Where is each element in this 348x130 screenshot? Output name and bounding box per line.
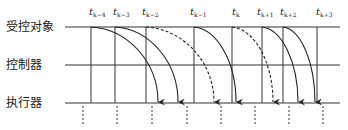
time-label: tk+3 bbox=[316, 6, 333, 18]
actuator-ticks bbox=[83, 106, 323, 126]
row-label-plant: 受控对象 bbox=[6, 20, 54, 34]
timing-diagram: 受控对象控制器执行器 tk−4tk−3tk−2tk−1tktk+1tk+2tk+… bbox=[0, 0, 348, 130]
time-label: tk−1 bbox=[190, 6, 207, 18]
row-label-actuator: 执行器 bbox=[6, 96, 42, 110]
row-labels: 受控对象控制器执行器 bbox=[6, 20, 54, 110]
time-label: tk bbox=[232, 6, 240, 18]
time-label: tk−4 bbox=[89, 6, 106, 18]
time-label: tk+2 bbox=[280, 6, 297, 18]
time-labels: tk−4tk−3tk−2tk−1tktk+1tk+2tk+3 bbox=[89, 6, 333, 18]
time-label: tk−2 bbox=[142, 6, 159, 18]
time-label: tk+1 bbox=[257, 6, 274, 18]
time-label: tk−3 bbox=[113, 6, 130, 18]
row-label-controller: 控制器 bbox=[6, 58, 42, 72]
